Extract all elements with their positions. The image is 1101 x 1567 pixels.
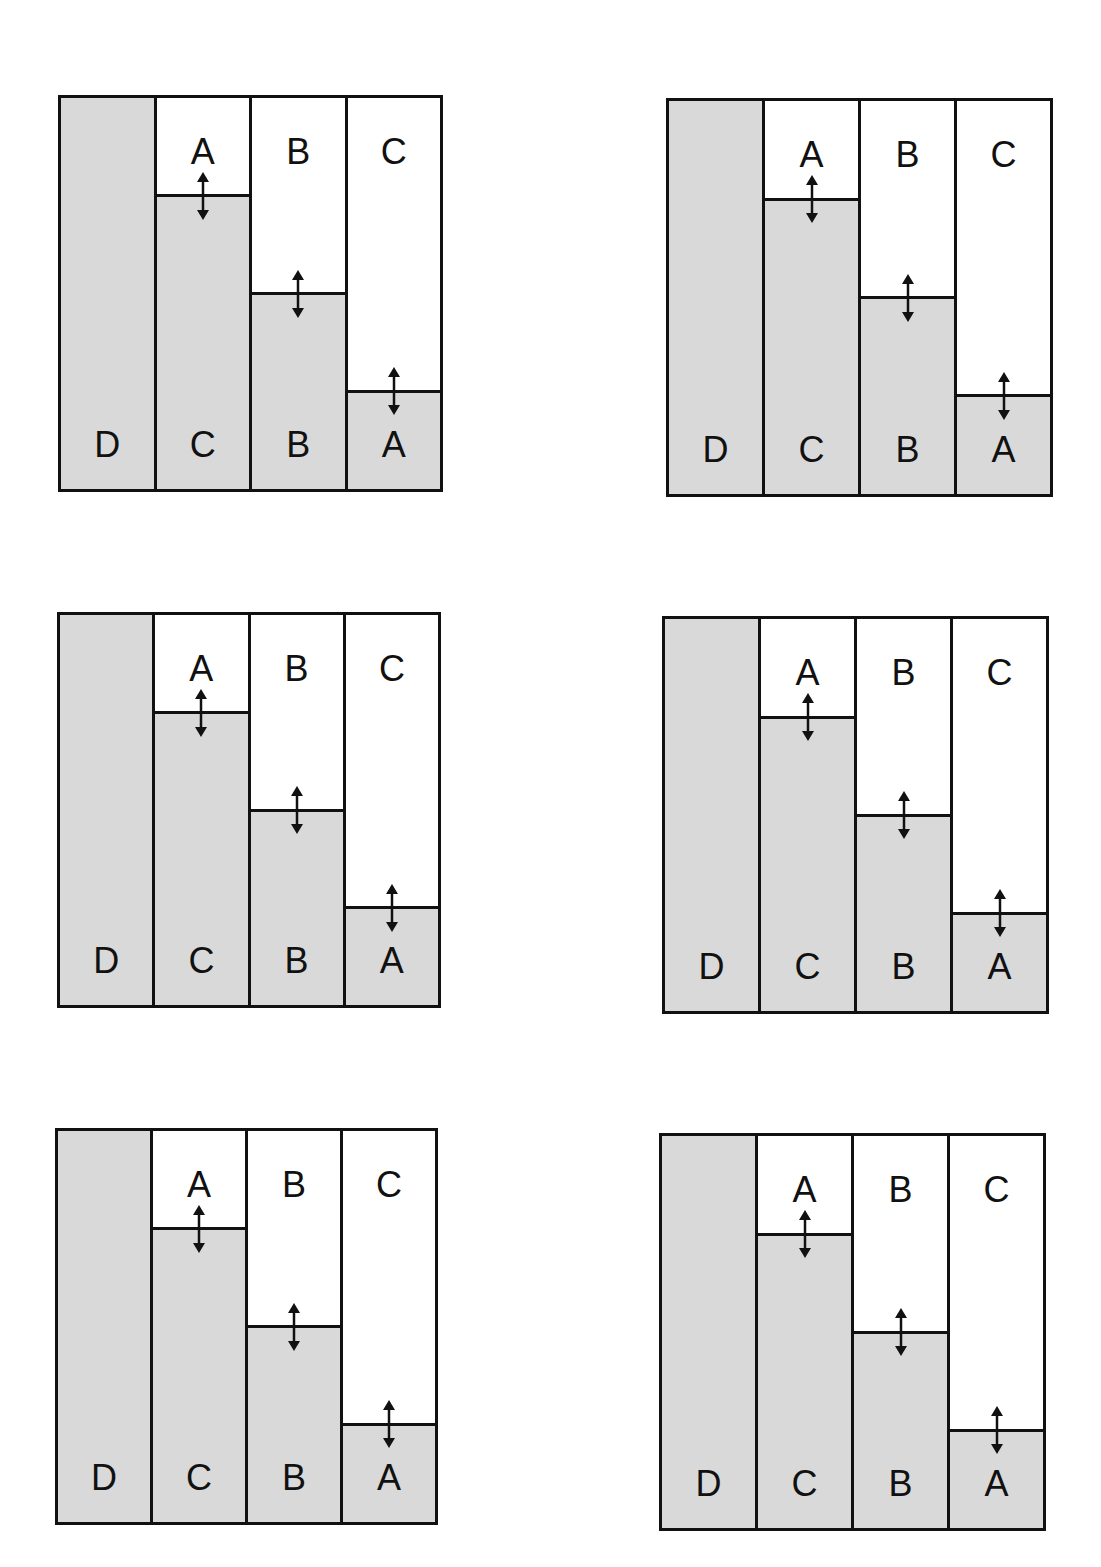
bottom-label: C xyxy=(157,427,250,463)
double-arrow-icon[interactable] xyxy=(896,791,912,839)
bottom-label: B xyxy=(857,949,950,985)
double-arrow-icon[interactable] xyxy=(384,884,400,932)
column-3: B B xyxy=(858,101,954,494)
bottom-label: D xyxy=(662,1466,755,1502)
bottom-label: B xyxy=(248,1460,340,1496)
top-label: C xyxy=(343,1167,435,1203)
top-label: A xyxy=(153,1167,245,1203)
double-arrow-icon[interactable] xyxy=(286,1303,302,1351)
column-4: C A xyxy=(950,619,1046,1011)
double-arrow-icon[interactable] xyxy=(804,175,820,223)
top-label: C xyxy=(957,137,1050,173)
column-2: A C xyxy=(762,101,858,494)
double-arrow-icon[interactable] xyxy=(900,274,916,322)
panel-2: D A C B B C A xyxy=(666,98,1053,497)
panel-4: D A C B B C A xyxy=(662,616,1049,1014)
column-1: D xyxy=(61,98,154,489)
column-1: D xyxy=(60,615,152,1005)
column-4: C A xyxy=(954,101,1050,494)
column-1: D xyxy=(662,1136,755,1528)
column-2: A C xyxy=(152,615,247,1005)
top-label: A xyxy=(761,655,854,691)
top-label: C xyxy=(348,134,441,170)
double-arrow-icon[interactable] xyxy=(386,367,402,415)
bottom-label: B xyxy=(854,1466,947,1502)
double-arrow-icon[interactable] xyxy=(996,372,1012,420)
double-arrow-icon[interactable] xyxy=(289,786,305,834)
top-label: C xyxy=(953,655,1046,691)
column-2: A C xyxy=(154,98,250,489)
column-3: B B xyxy=(248,615,343,1005)
top-label: B xyxy=(248,1167,340,1203)
top-label: A xyxy=(157,134,250,170)
bottom-label: C xyxy=(155,943,247,979)
double-arrow-icon[interactable] xyxy=(290,270,306,318)
bottom-label: C xyxy=(153,1460,245,1496)
column-3: B B xyxy=(249,98,345,489)
bottom-label: D xyxy=(61,427,154,463)
top-label: A xyxy=(765,137,858,173)
top-label: C xyxy=(950,1172,1043,1208)
bottom-label: A xyxy=(346,943,438,979)
top-label: B xyxy=(252,134,345,170)
top-label: C xyxy=(346,651,438,687)
bottom-label: D xyxy=(669,432,762,468)
double-arrow-icon[interactable] xyxy=(992,889,1008,937)
top-label: B xyxy=(854,1172,947,1208)
bottom-label: D xyxy=(58,1460,150,1496)
column-1: D xyxy=(58,1131,150,1522)
column-1: D xyxy=(665,619,758,1011)
bottom-label: A xyxy=(343,1460,435,1496)
column-3: B B xyxy=(245,1131,340,1522)
double-arrow-icon[interactable] xyxy=(191,1205,207,1253)
bottom-label: A xyxy=(348,427,441,463)
double-arrow-icon[interactable] xyxy=(800,693,816,741)
column-4: C A xyxy=(947,1136,1043,1528)
column-1: D xyxy=(669,101,762,494)
column-2: A C xyxy=(150,1131,245,1522)
bottom-label: A xyxy=(953,949,1046,985)
column-4: C A xyxy=(345,98,441,489)
double-arrow-icon[interactable] xyxy=(797,1210,813,1258)
top-label: A xyxy=(155,651,247,687)
bottom-label: A xyxy=(957,432,1050,468)
bottom-label: B xyxy=(252,427,345,463)
top-label: A xyxy=(758,1172,851,1208)
panel-1: D A C B B C A xyxy=(58,95,443,492)
bottom-label: C xyxy=(761,949,854,985)
bottom-label: C xyxy=(765,432,858,468)
bottom-label: B xyxy=(861,432,954,468)
double-arrow-icon[interactable] xyxy=(893,1308,909,1356)
panel-6: D A C B B C A xyxy=(659,1133,1046,1531)
bottom-label: C xyxy=(758,1466,851,1502)
column-3: B B xyxy=(854,619,950,1011)
column-4: C A xyxy=(343,615,438,1005)
bottom-label: D xyxy=(665,949,758,985)
top-label: B xyxy=(251,651,343,687)
panel-5: D A C B B C A xyxy=(55,1128,438,1525)
column-3: B B xyxy=(851,1136,947,1528)
column-2: A C xyxy=(755,1136,851,1528)
bottom-label: B xyxy=(251,943,343,979)
panel-3: D A C B B C A xyxy=(57,612,441,1008)
double-arrow-icon[interactable] xyxy=(989,1406,1005,1454)
double-arrow-icon[interactable] xyxy=(193,689,209,737)
double-arrow-icon[interactable] xyxy=(195,172,211,220)
column-2: A C xyxy=(758,619,854,1011)
double-arrow-icon[interactable] xyxy=(381,1400,397,1448)
column-4: C A xyxy=(340,1131,435,1522)
bottom-label: A xyxy=(950,1466,1043,1502)
top-label: B xyxy=(861,137,954,173)
top-label: B xyxy=(857,655,950,691)
bottom-label: D xyxy=(60,943,152,979)
